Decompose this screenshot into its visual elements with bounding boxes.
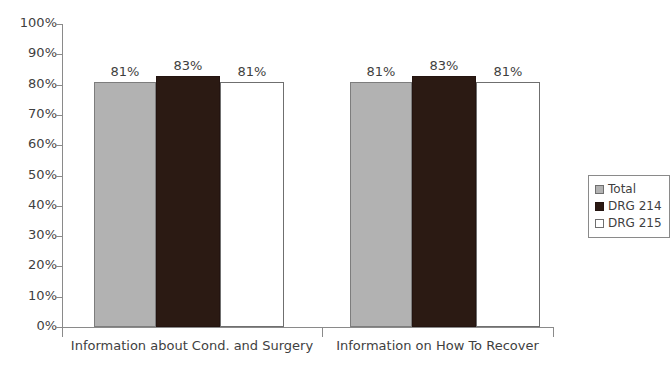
y-tick-label: 60% bbox=[0, 136, 57, 152]
bar-drg214-cat2[interactable]: 83% bbox=[412, 76, 476, 328]
bar-value-label: 81% bbox=[111, 64, 140, 79]
legend-item-label: Total bbox=[608, 182, 636, 197]
x-tick-mark bbox=[553, 328, 554, 337]
legend-item-drg-214[interactable]: DRG 214 bbox=[595, 198, 662, 215]
plot-area: 81% 83% 81% 81% 83% 81% bbox=[62, 24, 554, 327]
y-tick-label: 80% bbox=[0, 76, 57, 92]
y-tick-label: 10% bbox=[0, 288, 57, 304]
x-tick-mark bbox=[322, 328, 323, 337]
bar-value-label: 81% bbox=[367, 64, 396, 79]
legend-item-label: DRG 215 bbox=[608, 216, 662, 231]
bar-drg215-cat2[interactable]: 81% bbox=[476, 82, 540, 327]
legend-item-label: DRG 214 bbox=[608, 199, 662, 214]
legend-swatch-icon bbox=[595, 202, 604, 211]
bar-total-cat2[interactable]: 81% bbox=[350, 82, 412, 327]
legend-swatch-icon bbox=[595, 219, 604, 228]
y-tick-label: 0% bbox=[0, 318, 57, 334]
category-label-1: Information about Cond. and Surgery bbox=[62, 337, 322, 354]
bar-chart: 100% 90% 80% 70% 60% 50% 40% 30% 20% 10%… bbox=[0, 0, 672, 366]
legend-item-total[interactable]: Total bbox=[595, 181, 662, 198]
bar-group-information-about-cond-and-surgery: 81% 83% 81% bbox=[94, 24, 284, 327]
bar-value-label: 83% bbox=[174, 58, 203, 73]
x-axis-line bbox=[62, 327, 554, 328]
bar-value-label: 81% bbox=[238, 64, 267, 79]
y-tick-label: 40% bbox=[0, 197, 57, 213]
bar-drg214-cat1[interactable]: 83% bbox=[156, 76, 220, 328]
legend: Total DRG 214 DRG 215 bbox=[588, 175, 670, 238]
bar-value-label: 81% bbox=[494, 64, 523, 79]
y-tick-label: 100% bbox=[0, 15, 57, 31]
y-tick-label: 90% bbox=[0, 45, 57, 61]
bar-value-label: 83% bbox=[430, 58, 459, 73]
y-tick-label: 50% bbox=[0, 167, 57, 183]
bar-drg215-cat1[interactable]: 81% bbox=[220, 82, 284, 327]
bar-total-cat1[interactable]: 81% bbox=[94, 82, 156, 327]
bar-group-information-on-how-to-recover: 81% 83% 81% bbox=[350, 24, 540, 327]
y-tick-label: 30% bbox=[0, 227, 57, 243]
x-tick-mark bbox=[62, 328, 63, 337]
y-tick-label: 70% bbox=[0, 106, 57, 122]
y-tick-label: 20% bbox=[0, 257, 57, 273]
legend-swatch-icon bbox=[595, 185, 604, 194]
category-label-2: Information on How To Recover bbox=[322, 337, 553, 354]
legend-item-drg-215[interactable]: DRG 215 bbox=[595, 215, 662, 232]
